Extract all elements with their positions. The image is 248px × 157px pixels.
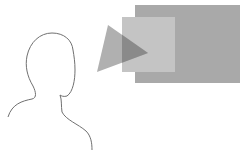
head-silhouette-outline: [8, 33, 92, 150]
diagram-canvas: [0, 0, 248, 157]
